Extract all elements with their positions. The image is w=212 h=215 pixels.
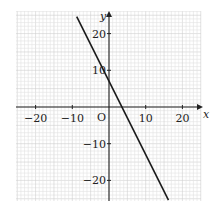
x-tick-label: −10 xyxy=(61,112,84,125)
chart: −20−1010202010−10−20 x y O xyxy=(0,0,212,215)
x-axis-label: x xyxy=(203,108,210,121)
y-axis-arrow-icon xyxy=(106,11,112,17)
origin-label: O xyxy=(97,111,106,124)
x-tick-label: 10 xyxy=(139,112,153,125)
y-tick-label: −20 xyxy=(83,174,106,187)
x-tick-label: 20 xyxy=(175,112,189,125)
y-tick-label: 20 xyxy=(92,28,106,41)
y-axis-label: y xyxy=(99,10,107,23)
x-tick-label: −20 xyxy=(24,112,47,125)
y-tick-label: −10 xyxy=(83,138,106,151)
